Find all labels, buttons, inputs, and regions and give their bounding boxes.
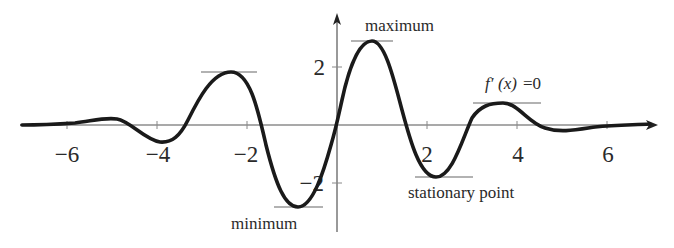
derivative-x-label: (x)	[498, 74, 517, 93]
x-tick-labels: −6 −4 −2 2 4 6	[55, 142, 614, 167]
y-tick-label: 2	[314, 55, 326, 80]
x-tick-label: −2	[234, 142, 258, 167]
x-tick-label: 4	[512, 142, 524, 167]
x-tick-label: −6	[55, 142, 79, 167]
annotation-minimum: minimum	[231, 214, 297, 233]
x-tick-label: 2	[421, 142, 433, 167]
function-curve	[22, 41, 650, 207]
function-plot: −6 −4 −2 2 4 6 2 −2 maximum minimum stat…	[0, 0, 674, 248]
x-tick-label: −4	[146, 142, 171, 167]
derivative-eq-label: =0	[523, 74, 541, 93]
annotation-stationary-point: stationary point	[408, 183, 515, 202]
x-axis	[20, 120, 658, 130]
derivative-f-label: f′	[485, 74, 494, 93]
x-tick-label: 6	[602, 142, 614, 167]
annotation-maximum: maximum	[365, 16, 434, 35]
annotation-derivative-zero: f′ (x) =0	[485, 74, 541, 93]
